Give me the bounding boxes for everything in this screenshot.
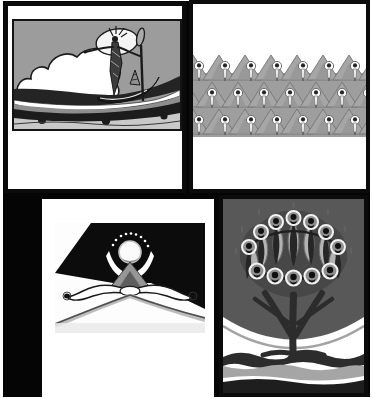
plate-frieze [189, 0, 370, 193]
summit-illustration-svg [55, 223, 205, 333]
plate-summit [42, 199, 214, 397]
sun-orb [119, 241, 141, 263]
plate-tree [219, 195, 368, 397]
summit-illustration [55, 223, 205, 333]
frieze-pattern-svg [193, 53, 366, 141]
scanned-page [0, 0, 372, 398]
frieze-pattern-band [193, 53, 366, 141]
frieze-row-1 [193, 55, 366, 81]
boat-illustration-svg [14, 21, 180, 129]
boat-illustration [12, 19, 182, 131]
plate-boat [4, 2, 186, 193]
tree-illustration-svg [223, 199, 364, 393]
tree-illustration [223, 199, 364, 393]
